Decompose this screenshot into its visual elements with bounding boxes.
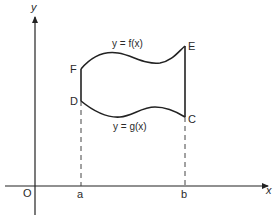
origin-label: O: [23, 187, 32, 199]
tick-label-b: b: [181, 188, 187, 200]
point-label-E: E: [188, 40, 195, 52]
point-label-D: D: [70, 95, 78, 107]
x-axis-label: x: [265, 184, 272, 196]
upper-curve-f: [81, 46, 185, 69]
tick-label-a: a: [77, 188, 84, 200]
lower-curve-label: y = g(x): [113, 121, 147, 132]
diagram-svg: y x O a b F D E C y = f(x) y = g(x): [0, 0, 275, 224]
region-between-curves-diagram: y x O a b F D E C y = f(x) y = g(x): [0, 0, 275, 224]
upper-curve-label: y = f(x): [112, 38, 143, 49]
point-label-C: C: [188, 113, 196, 125]
lower-curve-g: [81, 101, 185, 117]
point-label-F: F: [70, 63, 77, 75]
y-axis-label: y: [30, 1, 38, 13]
